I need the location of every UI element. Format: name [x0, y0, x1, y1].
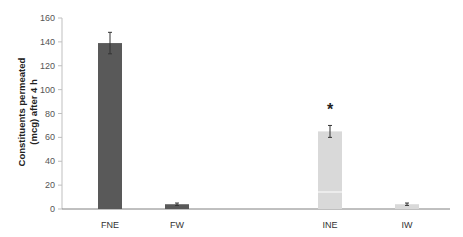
y-tick-label: 80 — [45, 109, 55, 119]
y-tick-label: 20 — [45, 180, 55, 190]
y-tick-label: 100 — [40, 85, 55, 95]
y-tick-label: 160 — [40, 13, 55, 23]
significance-marker: * — [327, 101, 334, 118]
x-tick-label: FW — [170, 220, 184, 230]
y-tick-label: 140 — [40, 37, 55, 47]
x-tick-label: FNE — [101, 220, 119, 230]
y-tick-label: 60 — [45, 132, 55, 142]
x-tick-label: IW — [402, 220, 414, 230]
y-tick-label: 0 — [50, 204, 55, 214]
bar-chart: 020406080100120140160FNEFWINEIW* — [0, 0, 463, 237]
y-tick-label: 40 — [45, 156, 55, 166]
x-tick-label: INE — [322, 220, 337, 230]
bar-fne — [98, 43, 122, 209]
bar-ine — [318, 131, 342, 209]
y-tick-label: 120 — [40, 61, 55, 71]
